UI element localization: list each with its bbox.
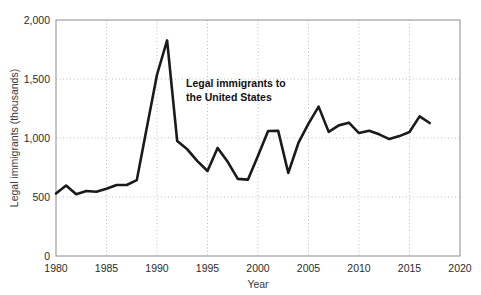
x-tick-label: 1985 [95, 262, 119, 274]
x-axis-title: Year [247, 278, 269, 290]
x-tick-label: 1995 [196, 262, 220, 274]
x-tick-label: 1990 [145, 262, 169, 274]
series-annotation-line1: Legal immigrants to [186, 77, 286, 89]
line-chart: 05001,0001,5002,000 19801985199019952000… [0, 0, 481, 295]
x-tick-label: 2000 [246, 262, 270, 274]
chart-background [0, 0, 481, 295]
x-axis-tick-labels: 198019851990199520002005201020152020 [44, 262, 472, 274]
x-tick-label: 2005 [297, 262, 321, 274]
x-tick-label: 2020 [448, 262, 472, 274]
x-tick-label: 2010 [347, 262, 371, 274]
y-axis-title: Legal immigrants (thousands) [8, 69, 20, 207]
y-tick-label: 1,500 [24, 73, 50, 85]
y-tick-label: 2,000 [24, 14, 50, 26]
x-tick-label: 1980 [44, 262, 68, 274]
chart-figure: 05001,0001,5002,000 19801985199019952000… [0, 0, 481, 295]
x-tick-label: 2015 [398, 262, 422, 274]
y-tick-label: 500 [32, 191, 50, 203]
series-annotation-line2: the United States [186, 91, 272, 103]
y-tick-label: 0 [44, 250, 50, 262]
y-tick-label: 1,000 [24, 132, 50, 144]
